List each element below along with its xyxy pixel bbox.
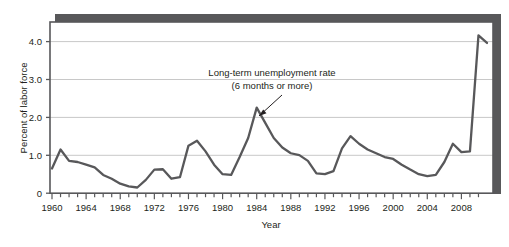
x-tick-label-1992: 1992 [314,202,335,213]
x-tick-label-2004: 2004 [417,202,438,213]
x-tick-label-1980: 1980 [212,202,233,213]
chart-figure: 4.0 3.0 2.0 1.0 0 Percent of labor force… [0,0,509,247]
x-tick-label-1960: 1960 [41,202,62,213]
y-tick-label-4: 4.0 [29,36,42,47]
y-tick-label-1: 1.0 [29,150,42,161]
y-tick-label-3: 3.0 [29,74,42,85]
x-tick-label-2008: 2008 [451,202,472,213]
x-axis-title: Year [261,219,280,230]
x-tick-label-1988: 1988 [280,202,301,213]
callout-line-1: Long-term unemployment rate [208,67,335,78]
x-tick-label-2000: 2000 [383,202,404,213]
y-tick-label-0: 0 [37,188,42,199]
chart-svg: 4.0 3.0 2.0 1.0 0 Percent of labor force… [0,0,509,247]
x-tick-label-1972: 1972 [144,202,165,213]
x-tick-label-1964: 1964 [76,202,97,213]
y-tick-label-2: 2.0 [29,112,42,123]
y-axis-title: Percent of labor force [18,63,29,154]
x-tick-label-1984: 1984 [246,202,267,213]
x-tick-label-1976: 1976 [178,202,199,213]
x-tick-label-1968: 1968 [110,202,131,213]
callout-line-2: (6 months or more) [232,80,313,91]
x-tick-label-1996: 1996 [348,202,369,213]
